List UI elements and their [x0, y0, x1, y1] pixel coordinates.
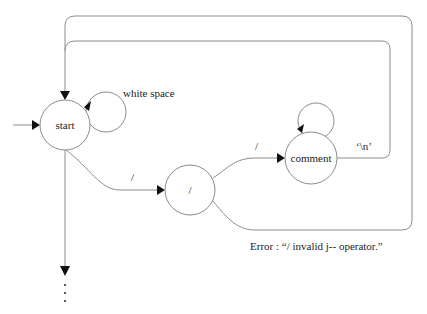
node-slash: / [165, 165, 215, 215]
arrow-down-icon [60, 91, 70, 100]
state-diagram: start / comment white space / / ‘\n’ Err… [0, 0, 427, 314]
continuation-ellipsis [64, 284, 66, 302]
edge-slash-to-start-error [65, 16, 412, 230]
label-newline: ‘\n’ [356, 140, 372, 152]
label-error: Error : “/ invalid j-- operator.” [250, 240, 383, 252]
node-start-label: start [56, 119, 75, 131]
arrow-right-icon [277, 153, 285, 163]
arrow-right-icon [157, 185, 165, 195]
label-white-space: white space [123, 87, 175, 99]
label-slash-to-comment: / [255, 140, 259, 152]
node-comment-label: comment [291, 152, 332, 164]
label-start-to-slash: / [131, 171, 135, 183]
edge-comment-to-start-newline [65, 41, 390, 158]
node-start: start [40, 100, 90, 150]
edge-start-to-slash [66, 150, 158, 190]
self-loop-white-space [86, 92, 126, 132]
edge-slash-to-comment [213, 158, 278, 178]
arrow-right-icon [32, 120, 40, 130]
arrow-down-icon [60, 266, 70, 276]
node-comment: comment [285, 132, 337, 184]
